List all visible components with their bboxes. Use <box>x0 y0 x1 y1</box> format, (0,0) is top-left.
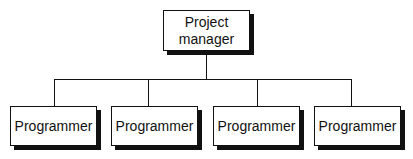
programmer-box-3: Programmer <box>213 106 300 146</box>
programmer-label: Programmer <box>15 118 93 135</box>
programmer-label: Programmer <box>116 118 194 135</box>
programmer-label: Programmer <box>218 118 296 135</box>
programmer-label: Programmer <box>319 118 397 135</box>
connector-horizontal-bus <box>54 79 352 80</box>
project-manager-label: Project manager <box>172 14 242 48</box>
connector-child-3 <box>257 79 258 106</box>
programmer-box-4: Programmer <box>314 106 401 146</box>
connector-child-2 <box>148 79 149 106</box>
connector-child-4 <box>351 79 352 106</box>
programmer-box-2: Programmer <box>111 106 198 146</box>
programmer-box-1: Programmer <box>10 106 97 146</box>
connector-root-vertical <box>206 51 207 80</box>
project-manager-box: Project manager <box>163 10 250 51</box>
connector-child-1 <box>54 79 55 106</box>
